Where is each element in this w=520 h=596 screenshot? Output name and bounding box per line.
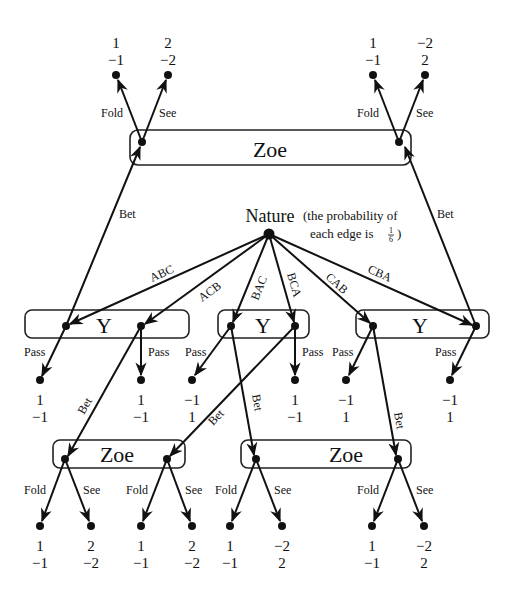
payoff-top-2-p2: −2 bbox=[160, 52, 176, 68]
leaf-top-4 bbox=[421, 71, 429, 79]
edge-label-see-3: See bbox=[274, 483, 291, 497]
edge-label-bet-4: Bet bbox=[391, 411, 408, 430]
payoff-pass-4-p2: −1 bbox=[287, 409, 303, 425]
nature-note-close: ) bbox=[397, 226, 401, 241]
payoff-bottom-4-p1: 2 bbox=[188, 538, 196, 554]
leaf-bottom-4 bbox=[188, 522, 196, 530]
edge-label-see-2: See bbox=[185, 483, 202, 497]
edge-label-fold-1: Fold bbox=[24, 483, 46, 497]
leaf-pass-1 bbox=[36, 376, 44, 384]
node-y-mid-b bbox=[291, 322, 299, 330]
payoff-pass-1-p2: −1 bbox=[32, 409, 48, 425]
edge-y-right-a-bet bbox=[373, 326, 396, 455]
game-tree-diagram: Zoe Y Y Y Zoe Zoe Nature (the probabilit… bbox=[0, 0, 520, 596]
edge-label-pass-3: Pass bbox=[185, 345, 207, 359]
nature-note-frac-den: 6 bbox=[389, 235, 393, 244]
info-set-zoe-bottom-right-label: Zoe bbox=[329, 442, 363, 467]
edge-label-fold-top-left: Fold bbox=[101, 106, 123, 120]
leaf-pass-3 bbox=[188, 376, 196, 384]
edge-label-fold-top-right: Fold bbox=[357, 106, 379, 120]
edge-label-fold-3: Fold bbox=[215, 483, 237, 497]
edge-label-see-top-right: See bbox=[416, 106, 433, 120]
leaf-pass-2 bbox=[137, 376, 145, 384]
edge-label-pass-1: Pass bbox=[24, 345, 46, 359]
edge-label-pass-4: Pass bbox=[302, 345, 324, 359]
leaf-top-1 bbox=[112, 71, 120, 79]
edge-label-cba: CBA bbox=[366, 262, 395, 285]
payoff-bottom-8-p1: −2 bbox=[416, 538, 432, 554]
edge-label-see-4: See bbox=[416, 483, 433, 497]
edge-y-left-bet-top bbox=[66, 147, 140, 326]
node-zoe-br-b bbox=[394, 455, 402, 463]
info-set-zoe-bottom-left-label: Zoe bbox=[100, 442, 134, 467]
payoff-pass-5-p2: 1 bbox=[342, 409, 350, 425]
payoff-top-2-p1: 2 bbox=[164, 35, 172, 51]
payoff-bottom-1-p1: 1 bbox=[36, 538, 44, 554]
node-y-left-b bbox=[137, 322, 145, 330]
node-y-right-a bbox=[369, 322, 377, 330]
edge-label-pass-5: Pass bbox=[332, 345, 354, 359]
edge-label-acb: ACB bbox=[196, 279, 224, 305]
edge-label-see-top-left: See bbox=[159, 106, 176, 120]
nature-label: Nature bbox=[246, 206, 295, 226]
payoff-pass-6-p2: 1 bbox=[446, 409, 454, 425]
payoff-top-4-p1: −2 bbox=[417, 35, 433, 51]
leaf-bottom-2 bbox=[87, 522, 95, 530]
edge-label-bet-top-right: Bet bbox=[437, 207, 454, 221]
payoff-pass-1-p1: 1 bbox=[36, 392, 44, 408]
payoff-top-1-p2: −1 bbox=[108, 52, 124, 68]
leaf-top-3 bbox=[369, 71, 377, 79]
node-y-mid-a bbox=[227, 322, 235, 330]
nature-node bbox=[264, 229, 275, 240]
payoff-bottom-2-p1: 2 bbox=[87, 538, 95, 554]
nature-note-line1: (the probability of bbox=[303, 208, 398, 223]
edge-label-fold-4: Fold bbox=[357, 483, 379, 497]
leaf-pass-4 bbox=[291, 376, 299, 384]
edge-label-pass-6: Pass bbox=[435, 345, 457, 359]
node-zoe-br-a bbox=[252, 455, 260, 463]
info-set-y-mid-label: Y bbox=[255, 313, 271, 338]
payoff-bottom-7-p2: −1 bbox=[364, 555, 380, 571]
payoff-top-1-p1: 1 bbox=[112, 35, 120, 51]
leaf-top-2 bbox=[164, 71, 172, 79]
payoff-bottom-5-p2: −1 bbox=[222, 555, 238, 571]
node-y-left-a bbox=[62, 322, 70, 330]
payoff-bottom-6-p1: −2 bbox=[274, 538, 290, 554]
info-set-zoe-bottom-right bbox=[241, 440, 411, 468]
payoff-top-3-p1: 1 bbox=[369, 35, 377, 51]
payoff-bottom-7-p1: 1 bbox=[368, 538, 376, 554]
node-zoe-bl-a bbox=[61, 455, 69, 463]
payoff-pass-5-p1: −1 bbox=[338, 392, 354, 408]
info-set-zoe-top-label: Zoe bbox=[253, 137, 287, 162]
leaf-bottom-8 bbox=[420, 522, 428, 530]
leaf-bottom-1 bbox=[36, 522, 44, 530]
info-set-y-left-label: Y bbox=[96, 313, 112, 338]
leaf-pass-6 bbox=[446, 376, 454, 384]
payoff-bottom-4-p2: −2 bbox=[184, 555, 200, 571]
payoff-bottom-8-p2: 2 bbox=[420, 555, 428, 571]
payoff-bottom-6-p2: 2 bbox=[278, 555, 286, 571]
payoff-top-3-p2: −1 bbox=[365, 52, 381, 68]
payoff-pass-3-p2: 1 bbox=[188, 409, 196, 425]
node-zoe-bl-b bbox=[163, 455, 171, 463]
leaf-bottom-5 bbox=[226, 522, 234, 530]
edge-label-fold-2: Fold bbox=[126, 483, 148, 497]
nature-note-frac-num: 1 bbox=[389, 226, 393, 235]
payoff-pass-6-p1: −1 bbox=[442, 392, 458, 408]
edge-label-bet-2: Bet bbox=[205, 406, 227, 428]
leaf-bottom-7 bbox=[368, 522, 376, 530]
edge-label-bet-3: Bet bbox=[249, 393, 266, 412]
edge-label-pass-2: Pass bbox=[148, 345, 170, 359]
payoff-pass-2-p2: −1 bbox=[133, 409, 149, 425]
edge-y-left-b-bet bbox=[68, 326, 141, 456]
payoff-pass-2-p1: 1 bbox=[137, 392, 145, 408]
node-y-right-b bbox=[472, 322, 480, 330]
info-set-y-right-label: Y bbox=[412, 313, 428, 338]
node-zoe-top-left bbox=[138, 138, 146, 146]
payoff-bottom-1-p2: −1 bbox=[32, 555, 48, 571]
leaf-bottom-6 bbox=[278, 522, 286, 530]
nature-note-line2: each edge is bbox=[310, 226, 374, 241]
payoff-bottom-3-p1: 1 bbox=[137, 538, 145, 554]
edge-label-abc: ABC bbox=[148, 262, 176, 285]
leaf-pass-5 bbox=[342, 376, 350, 384]
